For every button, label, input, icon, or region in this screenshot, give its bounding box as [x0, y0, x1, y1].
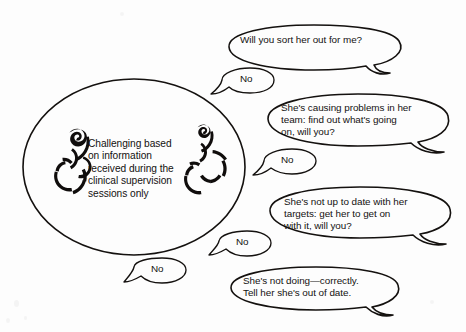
bubble-1: [229, 25, 401, 74]
bubble-4-text: She's not doing—correctly. Tell her she'…: [243, 275, 359, 299]
reply-1-text: No: [240, 73, 253, 85]
scan-speck: [120, 12, 124, 16]
diagram-canvas: Challenging based on information receive…: [0, 0, 466, 332]
reply-2-text: No: [281, 154, 294, 166]
diagram-vector-layer: [0, 0, 466, 332]
bubble-3-text: She's not up to date with her targets: g…: [284, 196, 407, 233]
bubble-2-text: She's causing problems in her team: find…: [281, 102, 412, 139]
scan-speck: [14, 300, 19, 307]
reply-3-text: No: [236, 236, 249, 248]
bubble-1-text: Will you sort her out for me?: [240, 34, 362, 46]
stylized-figure-glyph-right: [184, 124, 227, 194]
stylized-figure-glyph-left: [54, 129, 91, 195]
scan-speck: [6, 318, 10, 323]
central-oval-label: Challenging based on information receive…: [88, 138, 174, 200]
reply-4-text: No: [151, 263, 164, 275]
scan-speck: [24, 316, 27, 320]
scan-speck: [430, 300, 434, 304]
